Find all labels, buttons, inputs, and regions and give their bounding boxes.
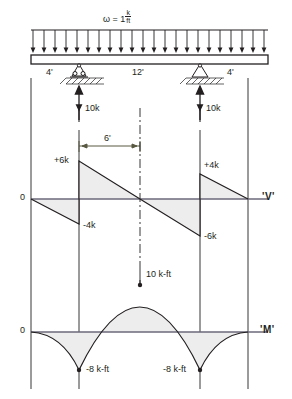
left-reaction-tick xyxy=(77,105,82,110)
moment-fill-left xyxy=(31,332,79,370)
moment-label-right-min: -8 k-ft xyxy=(163,365,186,374)
left-support xyxy=(60,64,104,84)
moment-diagram-group xyxy=(31,270,268,372)
distributed-load-group xyxy=(31,30,268,53)
moment-left-min-marker xyxy=(77,368,81,372)
shear-label-plus-6k: +6k xyxy=(54,156,69,165)
right-support-hatching xyxy=(180,78,224,84)
shear-zero-label: 0 xyxy=(20,193,25,202)
load-unit-denominator: ft xyxy=(125,17,131,24)
dimension-label-span: 12' xyxy=(132,68,144,77)
figure-canvas xyxy=(0,0,292,399)
distributed-load-arrowheads xyxy=(31,48,267,54)
load-unit-numerator: k xyxy=(125,9,131,17)
moment-diagram-label: 'M' xyxy=(260,325,275,335)
beam-shear-moment-figure: ω = 1kft 4' 12' 4' 10k 10k 6' +6k -4k +4… xyxy=(0,0,292,399)
left-reaction-label: 10k xyxy=(85,104,100,113)
shear-label-minus-6k: -6k xyxy=(204,232,217,241)
moment-zero-label: 0 xyxy=(20,326,25,335)
shear-diagram-label: 'V' xyxy=(262,192,275,202)
dimension-label-right-overhang: 4' xyxy=(227,68,234,77)
shear-label-minus-4k: -4k xyxy=(83,221,96,230)
right-reaction-head xyxy=(196,86,203,94)
omega-symbol: ω xyxy=(103,14,110,24)
moment-label-left-min: -8 k-ft xyxy=(86,365,109,374)
beam-member xyxy=(31,55,268,64)
distributed-load-arrows xyxy=(33,30,264,50)
right-reaction-label: 10k xyxy=(206,104,221,113)
load-equals-value: = 1 xyxy=(113,14,126,24)
left-reaction-head xyxy=(75,86,82,94)
dimension-label-left-overhang: 4' xyxy=(46,68,53,77)
dimension-label-zero-shear-offset: 6' xyxy=(104,134,111,143)
moment-label-peak: 10 k-ft xyxy=(146,270,171,279)
left-support-hatching xyxy=(60,78,104,84)
moment-fill-right xyxy=(200,332,248,370)
load-unit-fraction: kft xyxy=(125,9,131,25)
moment-right-min-marker xyxy=(198,368,202,372)
shear-diagram-group xyxy=(31,161,268,236)
right-reaction-tick xyxy=(198,105,203,110)
moment-peak-marker xyxy=(138,283,142,287)
shear-label-plus-4k: +4k xyxy=(204,161,219,170)
right-support xyxy=(180,64,224,84)
distributed-load-label: ω = 1kft xyxy=(103,9,131,25)
